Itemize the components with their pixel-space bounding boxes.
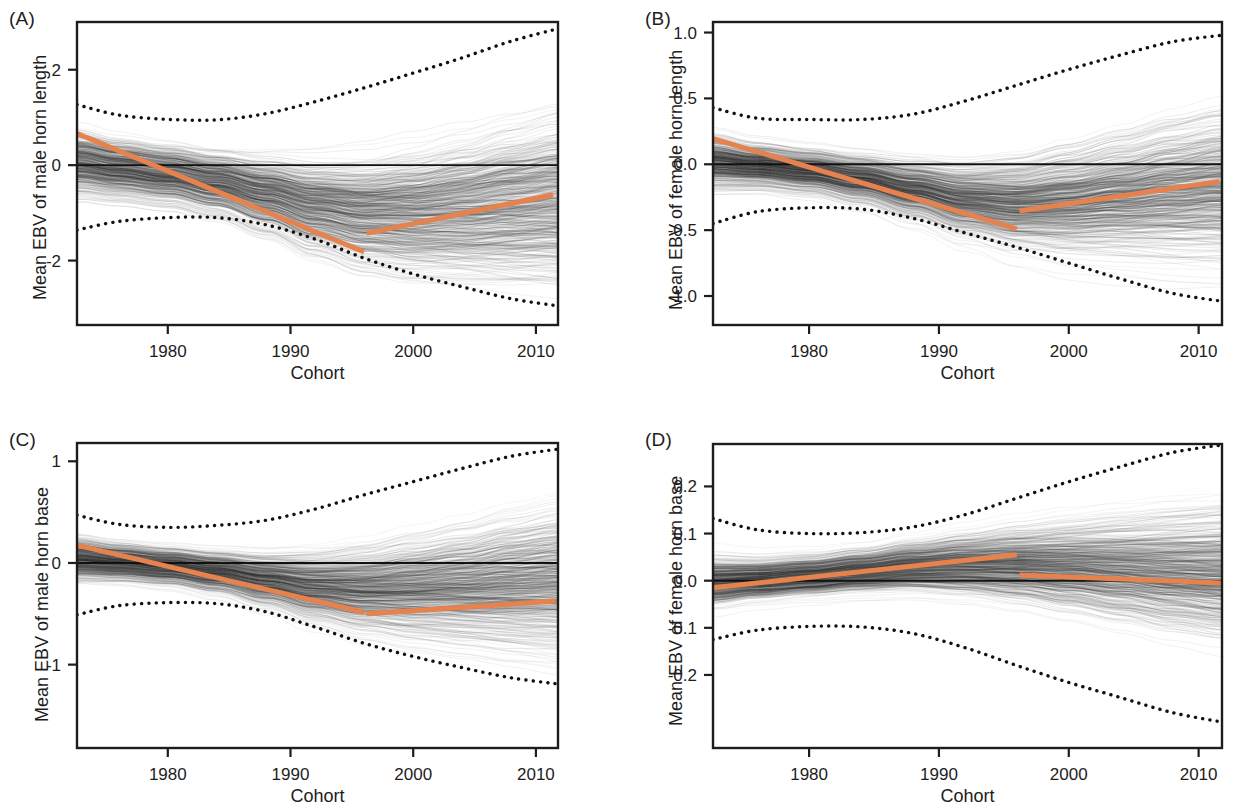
trend-line-b-2 <box>713 139 1017 229</box>
ci-line-b-0 <box>713 35 1222 120</box>
plot-frame-d <box>713 444 1222 748</box>
y-axis-c: 10-1 <box>46 452 77 674</box>
x-tick-label: 1980 <box>790 342 828 361</box>
y-tick-label: 0 <box>52 156 61 175</box>
plot-frame-c <box>77 443 558 748</box>
x-axis-title-a: Cohort <box>77 363 558 384</box>
trend-line-c-2 <box>77 545 364 612</box>
panel-label-b: (B) <box>645 8 671 30</box>
y-tick-label: -0.5 <box>668 221 697 240</box>
y-tick-label: -0.1 <box>668 619 697 638</box>
ci-line-d-1 <box>713 626 1222 722</box>
panel-c: (C)Mean EBV of male horn baseCohort19801… <box>0 0 1233 804</box>
panel-b: (B)Mean EBV of female horn lengthCohort1… <box>0 0 1233 804</box>
trend-line-a-3 <box>367 195 554 234</box>
panel-a: (A)Mean EBV of male horn lengthCohort198… <box>0 0 1233 804</box>
x-tick-label: 2000 <box>394 765 432 784</box>
y-tick-label: -0.2 <box>668 666 697 685</box>
plot-content-d <box>713 445 1222 722</box>
panel-d: (D)Mean EBV of female horn baseCohort198… <box>0 0 1233 804</box>
ci-line-a-1 <box>77 217 558 306</box>
x-tick-label: 2010 <box>517 342 555 361</box>
x-tick-label: 1990 <box>920 765 958 784</box>
plot-area-d: 19801990200020100.20.10.0-0.1-0.2 <box>0 0 1233 804</box>
figure-canvas: (A)Mean EBV of male horn lengthCohort198… <box>0 0 1233 804</box>
posterior-spaghetti-a <box>77 104 558 299</box>
y-tick-label: -1 <box>46 656 61 675</box>
x-axis-title-b: Cohort <box>713 363 1222 384</box>
posterior-spaghetti-c <box>77 493 558 675</box>
x-tick-label: 2010 <box>1180 342 1218 361</box>
ci-line-d-0 <box>713 445 1222 534</box>
y-tick-label: 1 <box>52 452 61 471</box>
y-tick-label: 0.1 <box>673 525 697 544</box>
ci-line-c-0 <box>77 449 558 527</box>
x-axis-b: 1980199020002010 <box>790 325 1217 361</box>
posterior-spaghetti-d <box>713 494 1222 657</box>
x-tick-label: 2000 <box>394 342 432 361</box>
x-tick-label: 2010 <box>517 765 555 784</box>
plot-area-b: 19801990200020101.00.50.0-0.5-1.0 <box>0 0 1233 804</box>
x-axis-title-d: Cohort <box>713 786 1222 804</box>
x-axis-d: 1980199020002010 <box>790 748 1217 784</box>
trend-line-a-2 <box>77 134 364 252</box>
y-axis-title-c: Mean EBV of male horn base <box>32 487 53 722</box>
posterior-spaghetti-b <box>713 96 1222 289</box>
x-tick-label: 1980 <box>790 765 828 784</box>
x-axis-a: 1980199020002010 <box>149 325 555 361</box>
trend-line-c-3 <box>367 601 556 614</box>
panel-label-c: (C) <box>9 429 36 451</box>
y-tick-label: -2 <box>46 252 61 271</box>
trend-line-b-3 <box>1019 181 1219 211</box>
x-axis-c: 1980199020002010 <box>149 748 555 784</box>
x-tick-label: 2010 <box>1180 765 1218 784</box>
y-axis-a: 20-2 <box>46 61 77 271</box>
y-axis-title-b: Mean EBV of female horn length <box>666 50 687 310</box>
panel-label-d: (D) <box>645 429 672 451</box>
x-tick-label: 1980 <box>149 342 187 361</box>
panel-label-a: (A) <box>9 8 35 30</box>
y-axis-d: 0.20.10.0-0.1-0.2 <box>668 477 713 685</box>
y-tick-label: -1.0 <box>668 287 697 306</box>
y-tick-label: 0 <box>52 554 61 573</box>
y-tick-label: 1.0 <box>673 24 697 43</box>
ci-line-b-1 <box>713 208 1222 302</box>
trend-line-d-3 <box>1019 575 1222 583</box>
ci-line-c-1 <box>77 602 558 684</box>
x-tick-label: 2000 <box>1050 765 1088 784</box>
x-tick-label: 1990 <box>272 765 310 784</box>
y-tick-label: 2 <box>52 61 61 80</box>
x-axis-title-c: Cohort <box>77 786 558 804</box>
plot-content-b <box>713 35 1222 301</box>
x-tick-label: 1980 <box>149 765 187 784</box>
y-tick-label: 0.0 <box>673 572 697 591</box>
plot-area-a: 198019902000201020-2 <box>0 0 1233 804</box>
x-tick-label: 2000 <box>1050 342 1088 361</box>
x-tick-label: 1990 <box>272 342 310 361</box>
y-axis-title-d: Mean EBV of female horn base <box>666 476 687 726</box>
y-tick-label: 0.2 <box>673 477 697 496</box>
ci-line-a-0 <box>77 29 558 121</box>
y-axis-title-a: Mean EBV of male horn length <box>30 55 51 300</box>
y-tick-label: 0.5 <box>673 89 697 108</box>
plot-content-c <box>77 449 558 684</box>
x-tick-label: 1990 <box>920 342 958 361</box>
plot-area-c: 198019902000201010-1 <box>0 0 1233 804</box>
plot-content-a <box>77 29 558 306</box>
plot-frame-a <box>77 22 558 325</box>
trend-line-d-2 <box>713 555 1017 588</box>
y-tick-label: 0.0 <box>673 155 697 174</box>
plot-frame-b <box>713 22 1222 325</box>
y-axis-b: 1.00.50.0-0.5-1.0 <box>668 24 713 306</box>
